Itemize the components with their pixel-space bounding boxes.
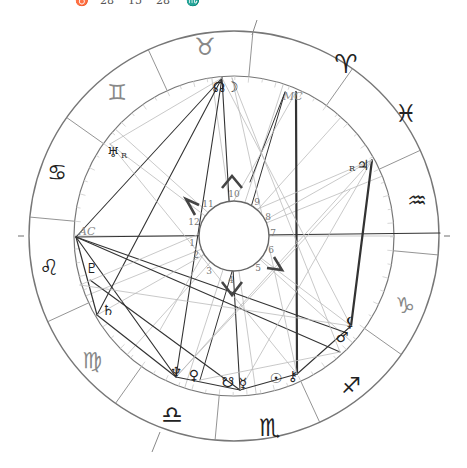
aspect-line — [240, 160, 372, 390]
sign-divider — [48, 303, 89, 322]
aspect-line — [76, 78, 222, 237]
degree-tick — [153, 371, 155, 374]
degree-tick — [89, 168, 94, 171]
degree-tick — [193, 81, 195, 87]
ic-outer-tick — [152, 432, 160, 452]
sign-capricorn-icon: ♑ — [395, 293, 415, 318]
house-number: 11 — [202, 199, 213, 209]
sign-divider — [116, 367, 142, 404]
mercury-icon: ☿ — [239, 375, 248, 391]
degree-tick — [102, 324, 107, 327]
house-number: 10 — [228, 189, 240, 199]
degree-tick — [298, 376, 301, 381]
degree-tick — [192, 385, 194, 391]
degree-tick — [79, 275, 85, 277]
degree-tick — [383, 195, 389, 197]
degree-tick — [313, 98, 315, 101]
chevron-right — [267, 257, 282, 270]
house-cusp — [115, 129, 208, 213]
center-hub — [199, 201, 269, 271]
aspect-line — [97, 315, 176, 377]
sign-aquarius-icon: ♒ — [407, 188, 427, 213]
degree-tick — [143, 104, 146, 109]
degree-tick — [132, 113, 135, 116]
degree-tick — [361, 145, 366, 148]
house-number: 8 — [265, 212, 271, 222]
moon-icon: ☽ — [226, 79, 239, 95]
south-node-icon: ☋ — [222, 374, 234, 390]
degree-tick — [388, 209, 392, 210]
degree-tick — [262, 79, 263, 83]
degree-tick — [360, 325, 365, 328]
sign-libra-icon: ♎ — [161, 401, 183, 429]
saturn-icon: ♄ — [102, 302, 115, 318]
degree-tick — [84, 180, 88, 181]
natal-chart-wheel: 123456789101112 ♈♉♊♋♌♍♎♏♐♑♒♓ ACMC ☊☽♅R♃R… — [0, 0, 467, 468]
hub-circle — [199, 201, 269, 271]
mars-icon: ♂ — [336, 329, 349, 345]
degree-tick — [75, 221, 81, 222]
sign-cancer-icon: ♋ — [47, 160, 67, 185]
house-number: 12 — [188, 217, 199, 227]
degree-tick — [370, 157, 373, 159]
house-number: 2 — [193, 250, 199, 260]
degree-tick — [343, 123, 347, 127]
uranus-icon: ♅ — [107, 144, 120, 160]
sign-divider — [30, 217, 75, 221]
chiron-icon: ⚷ — [288, 368, 298, 384]
degree-tick — [80, 194, 86, 196]
degree-tick — [166, 375, 169, 380]
aspect-line — [296, 92, 297, 374]
house-number: 4 — [228, 275, 234, 285]
chevron-left — [186, 199, 199, 215]
house-number: 1 — [189, 238, 195, 248]
degree-tick — [354, 134, 357, 137]
chevron-top — [222, 176, 242, 188]
degree-tick — [383, 277, 389, 279]
degree-tick — [335, 114, 338, 117]
degree-tick — [205, 389, 206, 393]
sign-divider — [148, 50, 167, 91]
degree-tick — [180, 85, 181, 89]
degree-tick — [111, 336, 114, 339]
sun-icon: ☉ — [270, 370, 283, 386]
degree-tick — [96, 155, 99, 157]
sign-gemini-icon: ♊ — [107, 80, 127, 105]
house-number: 3 — [206, 266, 212, 276]
degree-tick — [311, 372, 313, 375]
neptune-icon: ♆ — [170, 364, 183, 380]
lilith-icon: ⚸ — [345, 314, 355, 330]
sign-divider — [301, 381, 320, 422]
sign-taurus-icon: ♉ — [194, 33, 216, 61]
degree-tick — [142, 362, 145, 367]
sign-divider — [365, 328, 402, 354]
degree-tick — [167, 91, 170, 96]
degree-tick — [83, 289, 87, 290]
degree-tick — [76, 262, 80, 263]
retrograde-marker: R — [121, 151, 128, 160]
degree-tick — [373, 302, 378, 305]
north-node-icon: ☊ — [213, 79, 225, 95]
degree-tick — [275, 82, 277, 88]
aspect-line — [90, 280, 240, 390]
degree-tick — [387, 264, 391, 265]
sign-divider — [215, 395, 219, 440]
pluto-icon: ♇ — [86, 260, 99, 276]
degree-tick — [248, 77, 249, 83]
sign-divider — [393, 251, 438, 255]
house-number: 5 — [255, 263, 261, 273]
degree-tick — [260, 390, 261, 394]
degree-tick — [380, 290, 384, 291]
house-number: 6 — [268, 245, 274, 255]
sign-sagittarius-icon: ♐ — [341, 373, 361, 398]
degree-tick — [77, 207, 81, 208]
sign-virgo-icon: ♍ — [82, 348, 102, 373]
degree-tick — [374, 169, 379, 172]
degree-tick — [121, 122, 125, 126]
house-cusp — [127, 262, 211, 355]
degree-tick — [112, 133, 115, 136]
sign-divider — [67, 118, 104, 144]
degree-tick — [369, 315, 372, 317]
degree-tick — [322, 363, 325, 368]
midheaven-label: MC — [282, 90, 303, 103]
